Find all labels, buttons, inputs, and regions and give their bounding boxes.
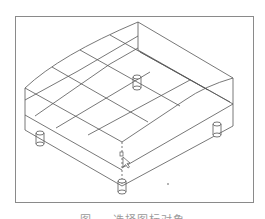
post-back [133,75,141,90]
top-left-curve [25,22,138,88]
wireframe-drawing [0,0,265,219]
grip-point[interactable] [120,152,123,156]
post-right [213,122,221,137]
arrow-cursor-icon [123,157,130,168]
post-front [118,179,126,194]
top-back-right-edge [138,22,233,78]
dot-marker [167,183,169,185]
figure-caption: 图 — 选择图标对象 [0,211,265,219]
